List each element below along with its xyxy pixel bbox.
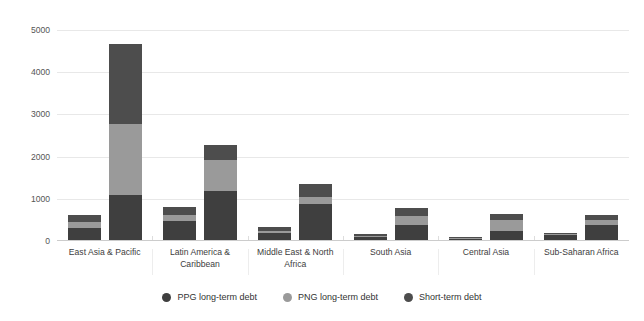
axis-baseline: [57, 240, 629, 241]
stacked-bar[interactable]: [299, 184, 332, 241]
bar-segment[interactable]: [204, 160, 237, 191]
bar-group: [438, 30, 533, 241]
stacked-bar-chart: 010002000300040005000 East Asia & Pacifi…: [0, 0, 644, 321]
bar-segment[interactable]: [585, 225, 618, 241]
stacked-bar[interactable]: [585, 215, 618, 241]
x-axis-category-label: Central Asia: [438, 247, 533, 259]
stacked-bar[interactable]: [490, 214, 523, 241]
bar-groups: [57, 30, 629, 241]
legend-swatch-icon: [404, 293, 413, 302]
legend-label: PPG long-term debt: [177, 292, 257, 302]
bar-segment[interactable]: [163, 207, 196, 215]
bar-group: [248, 30, 343, 241]
bar-segment[interactable]: [354, 234, 387, 235]
legend-label: Short-term debt: [419, 292, 482, 302]
x-axis-category-label: East Asia & Pacific: [57, 247, 152, 259]
bar-segment[interactable]: [490, 220, 523, 231]
bar-segment[interactable]: [544, 234, 577, 235]
bar-segment[interactable]: [163, 215, 196, 221]
bar-segment[interactable]: [299, 184, 332, 196]
legend-swatch-icon: [162, 293, 171, 302]
bar-segment[interactable]: [585, 215, 618, 219]
legend-label: PNG long-term debt: [298, 292, 378, 302]
bar-segment[interactable]: [490, 214, 523, 220]
bar-group: [534, 30, 629, 241]
y-axis-tick-label: 0: [45, 236, 50, 246]
bar-segment[interactable]: [258, 231, 291, 233]
bar-segment[interactable]: [299, 204, 332, 241]
bar-segment[interactable]: [395, 216, 428, 226]
bar-group: [152, 30, 247, 241]
bar-segment[interactable]: [204, 145, 237, 160]
stacked-bar[interactable]: [109, 44, 142, 241]
legend-item[interactable]: Short-term debt: [404, 292, 482, 302]
bar-segment[interactable]: [449, 237, 482, 238]
y-axis-tick-label: 5000: [31, 25, 50, 35]
x-axis-category-label: Middle East & North Africa: [248, 247, 343, 270]
bar-segment[interactable]: [449, 238, 482, 239]
x-axis-category-label: Sub-Saharan Africa: [534, 247, 629, 259]
y-axis-tick-label: 4000: [31, 67, 50, 77]
stacked-bar[interactable]: [204, 145, 237, 241]
bar-segment[interactable]: [68, 222, 101, 227]
y-axis-tick-label: 3000: [31, 109, 50, 119]
bar-segment[interactable]: [395, 225, 428, 241]
plot-area: [57, 30, 629, 241]
y-axis-labels: 010002000300040005000: [0, 30, 50, 241]
stacked-bar[interactable]: [163, 207, 196, 241]
stacked-bar[interactable]: [258, 227, 291, 241]
chart-legend: PPG long-term debtPNG long-term debtShor…: [0, 292, 644, 302]
x-axis-category-label: Latin America & Caribbean: [152, 247, 247, 270]
legend-item[interactable]: PNG long-term debt: [283, 292, 378, 302]
bar-segment[interactable]: [109, 124, 142, 195]
bar-group: [57, 30, 152, 241]
bar-segment[interactable]: [163, 221, 196, 241]
bar-segment[interactable]: [109, 44, 142, 124]
bar-group: [343, 30, 438, 241]
bar-segment[interactable]: [68, 215, 101, 222]
x-axis-labels: East Asia & PacificLatin America & Carib…: [57, 247, 629, 283]
bar-segment[interactable]: [395, 208, 428, 216]
legend-swatch-icon: [283, 293, 292, 302]
bar-segment[interactable]: [299, 197, 332, 204]
stacked-bar[interactable]: [68, 215, 101, 241]
x-axis-category-label: South Asia: [343, 247, 438, 259]
stacked-bar[interactable]: [395, 208, 428, 241]
bar-segment[interactable]: [354, 236, 387, 237]
bar-segment[interactable]: [585, 220, 618, 225]
bar-segment[interactable]: [204, 191, 237, 241]
y-axis-tick-label: 2000: [31, 152, 50, 162]
bar-segment[interactable]: [544, 233, 577, 234]
bar-segment[interactable]: [258, 227, 291, 232]
bar-segment[interactable]: [109, 195, 142, 241]
y-axis-tick-label: 1000: [31, 194, 50, 204]
legend-item[interactable]: PPG long-term debt: [162, 292, 257, 302]
